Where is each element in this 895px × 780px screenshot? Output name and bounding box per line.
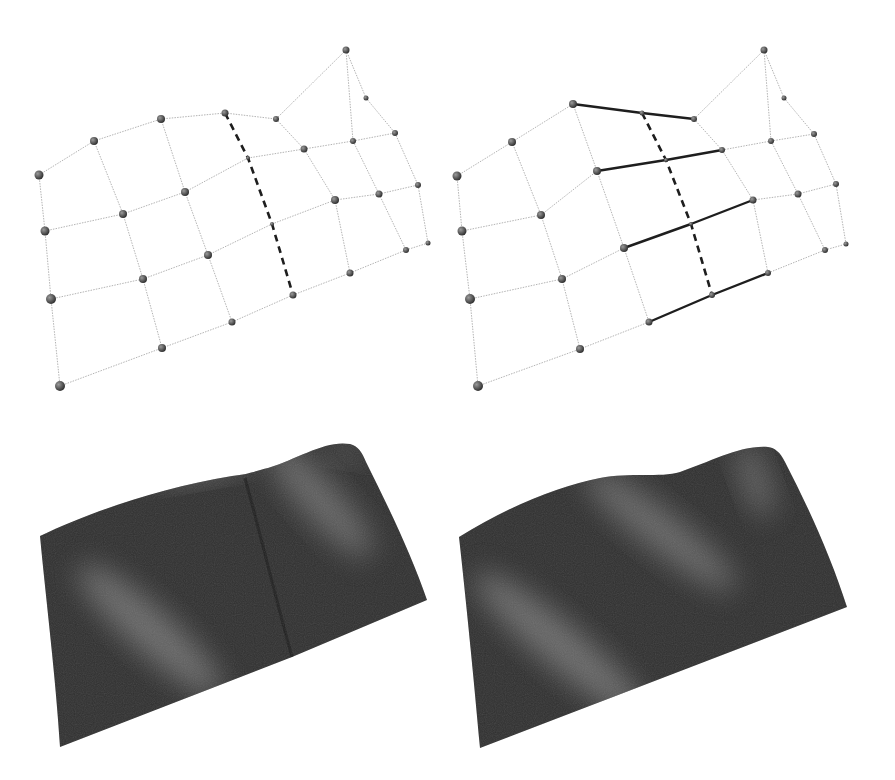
control-point <box>833 181 839 187</box>
mesh-edge <box>722 150 753 200</box>
control-point <box>290 292 297 299</box>
mesh-edge <box>457 142 512 176</box>
surface-right-smooth <box>459 438 847 748</box>
control-point <box>537 211 545 219</box>
mesh-edge <box>562 279 580 349</box>
mesh-edge <box>366 98 395 133</box>
highlighted-edge <box>573 104 642 113</box>
control-point <box>246 156 250 160</box>
control-point <box>364 96 369 101</box>
mesh-edge <box>272 200 335 224</box>
control-point <box>576 345 584 353</box>
mesh-edge <box>161 113 225 119</box>
control-point <box>750 197 757 204</box>
mesh-edge <box>45 214 123 231</box>
surface-grain <box>40 443 427 747</box>
control-point <box>640 111 645 116</box>
control-point <box>222 110 229 117</box>
control-point <box>403 247 409 253</box>
control-point <box>157 115 165 123</box>
highlighted-edge <box>712 273 768 295</box>
control-point <box>795 191 802 198</box>
mesh-edge <box>232 295 293 322</box>
control-point <box>508 138 516 146</box>
control-point <box>229 319 236 326</box>
mesh-edge <box>293 273 350 295</box>
control-point <box>761 47 768 54</box>
mesh-edge <box>722 141 771 150</box>
mesh-edge <box>162 322 232 348</box>
highlighted-edge <box>649 295 712 322</box>
dashed-crease-line <box>225 113 293 295</box>
control-point <box>35 171 44 180</box>
highlighted-edge <box>666 150 722 160</box>
mesh-edge <box>304 141 353 149</box>
mesh-edge <box>478 349 580 386</box>
mesh-edge <box>208 224 272 255</box>
control-point <box>844 242 849 247</box>
mesh-edge <box>771 141 798 194</box>
control-point <box>46 294 56 304</box>
mesh-edge <box>143 255 208 279</box>
mesh-edge <box>276 50 346 119</box>
mesh-edge <box>541 215 562 279</box>
mesh-edge <box>462 231 470 299</box>
mesh-edge <box>94 141 123 214</box>
control-point <box>765 270 771 276</box>
control-point <box>689 222 693 226</box>
control-point <box>350 138 356 144</box>
mesh-edge <box>39 141 94 175</box>
control-point <box>90 137 98 145</box>
mesh-edge <box>379 185 418 194</box>
control-point <box>158 344 166 352</box>
control-point <box>204 251 212 259</box>
control-point <box>811 131 817 137</box>
mesh-edge <box>418 185 428 243</box>
mesh-edge <box>335 194 379 200</box>
highlighted-edge <box>691 200 753 224</box>
control-point <box>593 167 601 175</box>
mesh-edge <box>94 119 161 141</box>
mesh-edge <box>161 119 185 192</box>
mesh-edge <box>185 158 248 192</box>
mesh-edge <box>462 215 541 231</box>
highlighted-edge <box>597 160 666 171</box>
control-point <box>822 247 828 253</box>
mesh-edge <box>836 184 846 244</box>
control-point <box>453 172 462 181</box>
mesh-edge <box>753 194 798 200</box>
control-point <box>782 96 787 101</box>
mesh-edge <box>143 279 162 348</box>
mesh-edge <box>694 50 764 119</box>
mesh-edge <box>39 175 45 231</box>
control-point <box>426 241 431 246</box>
mesh-edge <box>395 133 418 185</box>
control-point <box>664 158 668 162</box>
control-mesh-left <box>35 47 431 392</box>
mesh-edge <box>51 299 60 386</box>
dashed-crease-line <box>642 113 712 295</box>
control-point <box>343 47 350 54</box>
mesh-edge <box>624 248 649 322</box>
control-point <box>569 100 577 108</box>
control-point <box>273 116 279 122</box>
control-point <box>41 227 50 236</box>
mesh-edge <box>771 134 814 141</box>
mesh-edge <box>694 119 722 150</box>
mesh-edge <box>60 348 162 386</box>
mesh-edge <box>225 113 276 119</box>
mesh-edge <box>784 98 814 134</box>
mesh-edge <box>304 149 335 200</box>
mesh-edge <box>457 176 462 231</box>
control-mesh-right <box>453 47 849 392</box>
mesh-edge <box>353 141 379 194</box>
mesh-edge <box>768 250 825 273</box>
mesh-edge <box>798 194 825 250</box>
surface-grain <box>459 447 847 748</box>
highlighted-edge <box>642 113 694 119</box>
control-point <box>691 116 697 122</box>
mesh-edge <box>379 194 406 250</box>
mesh-edge <box>208 255 232 322</box>
figure-canvas <box>0 0 895 780</box>
mesh-edge <box>541 171 597 215</box>
